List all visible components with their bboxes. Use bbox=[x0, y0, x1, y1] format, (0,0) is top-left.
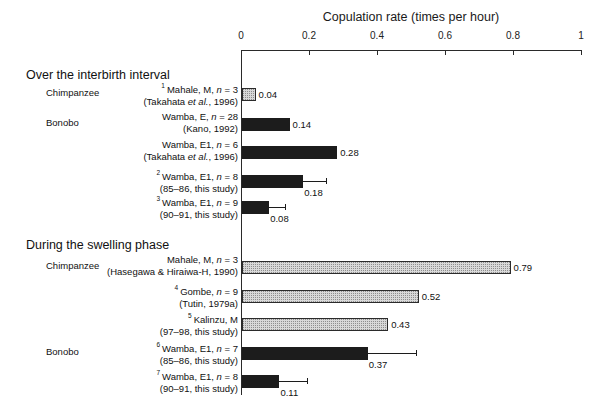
error-bar-cap bbox=[416, 350, 417, 356]
row-label-line1: 7Wamba, E1, n = 8 bbox=[156, 368, 238, 383]
scan-bleed-artifact bbox=[12, 14, 15, 26]
footnote-marker: 6 bbox=[156, 341, 160, 348]
figure-canvas: Copulation rate (times per hour) 00.20.4… bbox=[0, 0, 601, 412]
row-label-line2: (Hasegawa & Hiraiwa-H, 1990) bbox=[107, 266, 238, 278]
error-bar-cap bbox=[307, 378, 308, 384]
bar-value-label: 0.43 bbox=[391, 319, 410, 330]
footnote-marker: 3 bbox=[156, 195, 160, 202]
x-tick-label: 0.2 bbox=[302, 30, 316, 41]
y-axis-line bbox=[241, 50, 242, 395]
footnote-marker: 4 bbox=[175, 284, 179, 291]
row-label: 7Wamba, E1, n = 8(90–91, this study) bbox=[156, 368, 238, 394]
row-label-line1: Mahale, M, n = 3 bbox=[107, 254, 238, 266]
bar-value-label: 0.04 bbox=[259, 89, 278, 100]
row-label-line2: (90–91, this study) bbox=[156, 209, 238, 221]
row-label: 5Kalinzu, M(97–98, this study) bbox=[160, 311, 238, 337]
error-bar-cap bbox=[326, 178, 327, 184]
species-group-label: Bonobo bbox=[46, 346, 79, 357]
bar-value-label: 0.37 bbox=[369, 359, 388, 370]
footnote-marker: 2 bbox=[156, 169, 160, 176]
bar bbox=[242, 375, 279, 388]
x-tick-label: 0.8 bbox=[506, 30, 520, 41]
bar bbox=[242, 201, 269, 214]
row-label: 1Mahale, M, n = 3(Takahata et al., 1996) bbox=[143, 81, 238, 107]
bar bbox=[242, 175, 303, 188]
error-bar-line bbox=[367, 353, 416, 354]
bar-value-label: 0.18 bbox=[304, 187, 323, 198]
figure-caption-remnant bbox=[8, 404, 10, 412]
bar bbox=[242, 88, 256, 101]
error-bar-line bbox=[302, 181, 326, 182]
row-label-line1: Wamba, E1, n = 6 bbox=[143, 139, 238, 151]
bar-value-label: 0.79 bbox=[514, 262, 533, 273]
species-group-label: Chimpanzee bbox=[46, 87, 99, 98]
row-label: 4Gombe, n = 9(Tutin, 1979a) bbox=[175, 283, 238, 309]
footnote-marker: 7 bbox=[156, 369, 160, 376]
row-label-line1: 3Wamba, E1, n = 9 bbox=[156, 194, 238, 209]
row-label-line2: (Takahata et al., 1996) bbox=[143, 96, 238, 108]
bar-value-label: 0.14 bbox=[293, 119, 312, 130]
row-label-line2: (85–86, this study) bbox=[156, 183, 238, 195]
row-label-line1: 1Mahale, M, n = 3 bbox=[143, 81, 238, 96]
bar bbox=[242, 290, 419, 303]
section-header: Over the interbirth interval bbox=[26, 68, 170, 82]
row-label: 2Wamba, E1, n = 8(85–86, this study) bbox=[156, 168, 238, 194]
bar-value-label: 0.11 bbox=[280, 387, 298, 398]
error-bar-cap bbox=[285, 204, 286, 210]
row-label-line1: 6Wamba, E1, n = 7 bbox=[156, 340, 238, 355]
row-label: Mahale, M, n = 3(Hasegawa & Hiraiwa-H, 1… bbox=[107, 254, 238, 277]
bar bbox=[242, 318, 388, 331]
row-label-line1: 4Gombe, n = 9 bbox=[175, 283, 238, 298]
row-label-line2: (97–98, this study) bbox=[160, 326, 238, 338]
row-label-line2: (90–91, this study) bbox=[156, 383, 238, 395]
row-label-line2: (Kano, 1992) bbox=[162, 123, 238, 135]
row-label: Wamba, E, n = 28(Kano, 1992) bbox=[162, 111, 238, 134]
bar-value-label: 0.08 bbox=[270, 213, 289, 224]
bar bbox=[242, 118, 290, 131]
x-tick-mark bbox=[581, 50, 582, 55]
footnote-marker: 5 bbox=[188, 312, 192, 319]
row-label-line2: (85–86, this study) bbox=[156, 355, 238, 367]
error-bar-line bbox=[268, 207, 285, 208]
row-label-line1: 5Kalinzu, M bbox=[160, 311, 238, 326]
bar bbox=[242, 146, 337, 159]
x-axis-line bbox=[241, 50, 581, 51]
species-group-label: Chimpanzee bbox=[46, 260, 99, 271]
x-axis-title: Copulation rate (times per hour) bbox=[241, 10, 581, 24]
row-label: Wamba, E1, n = 6(Takahata et al., 1996) bbox=[143, 139, 238, 162]
bar-value-label: 0.28 bbox=[340, 147, 359, 158]
row-label: 3Wamba, E1, n = 9(90–91, this study) bbox=[156, 194, 238, 220]
row-label-line2: (Tutin, 1979a) bbox=[175, 298, 238, 310]
error-bar-line bbox=[278, 381, 307, 382]
species-group-label: Bonobo bbox=[46, 117, 79, 128]
bar-value-label: 0.52 bbox=[422, 291, 441, 302]
x-tick-label: 0.6 bbox=[438, 30, 452, 41]
row-label-line2: (Takahata et al., 1996) bbox=[143, 151, 238, 163]
x-tick-label: 0 bbox=[238, 30, 244, 41]
x-tick-label: 1 bbox=[578, 30, 584, 41]
row-label: 6Wamba, E1, n = 7(85–86, this study) bbox=[156, 340, 238, 366]
bar bbox=[242, 347, 368, 360]
row-label-line1: 2Wamba, E1, n = 8 bbox=[156, 168, 238, 183]
x-tick-label: 0.4 bbox=[370, 30, 384, 41]
footnote-marker: 1 bbox=[161, 82, 165, 89]
row-label-line1: Wamba, E, n = 28 bbox=[162, 111, 238, 123]
section-header: During the swelling phase bbox=[26, 238, 169, 252]
bar bbox=[242, 261, 511, 274]
